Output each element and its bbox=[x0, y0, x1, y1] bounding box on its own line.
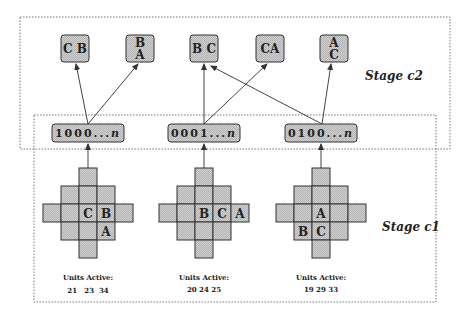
node-label: CA bbox=[261, 42, 281, 56]
cell-label: A bbox=[234, 207, 245, 221]
stage-c2-node-bc: B C bbox=[190, 35, 218, 62]
units-active-values-1: 21 23 34 bbox=[67, 286, 109, 295]
node-label: A bbox=[134, 48, 145, 62]
stage-c2-node-cb: C B bbox=[61, 35, 89, 62]
connection-arrows bbox=[76, 64, 331, 168]
cell-label: C bbox=[316, 225, 326, 239]
units-active-values-3: 19 29 33 bbox=[304, 285, 338, 294]
code-box-0001: 0001...n bbox=[168, 124, 240, 142]
code-box-0100: 0100...n bbox=[285, 124, 357, 142]
units-active-title-2: Units Active: bbox=[179, 273, 229, 282]
code-label: 1000...n bbox=[55, 127, 121, 140]
cell-label: C bbox=[83, 207, 93, 221]
node-label: C B bbox=[63, 42, 87, 56]
unit-grid-1: C B A bbox=[43, 168, 133, 258]
unit-grid-3: A B C bbox=[276, 168, 366, 258]
unit-grid-2: B C A bbox=[159, 168, 249, 258]
cell-label: B bbox=[101, 207, 111, 221]
stage-c1-label: Stage c1 bbox=[382, 220, 440, 234]
cell-label: C bbox=[217, 207, 227, 221]
stage-c2-label: Stage c2 bbox=[365, 69, 423, 83]
units-active-title-1: Units Active: bbox=[63, 273, 113, 282]
units-active-values-2: 20 24 25 bbox=[187, 285, 221, 294]
code-label: 0001...n bbox=[171, 127, 237, 140]
code-label: 0100...n bbox=[288, 127, 354, 140]
cell-label: B bbox=[199, 207, 209, 221]
stage-c2-node-ba: B A bbox=[126, 35, 154, 62]
node-label: C bbox=[329, 48, 339, 62]
stage-c2-node-ca: CA bbox=[256, 35, 284, 62]
units-active-title-3: Units Active: bbox=[296, 273, 346, 282]
node-label: B C bbox=[192, 42, 216, 56]
diagram-canvas: Stage c2 Stage c1 C B B A B C CA A C bbox=[0, 0, 469, 318]
stage-c2-node-ac: A C bbox=[320, 35, 348, 62]
code-box-1000: 1000...n bbox=[52, 124, 124, 142]
cell-label: A bbox=[315, 207, 326, 221]
cell-label: A bbox=[100, 225, 111, 239]
cell-label: B bbox=[298, 225, 308, 239]
